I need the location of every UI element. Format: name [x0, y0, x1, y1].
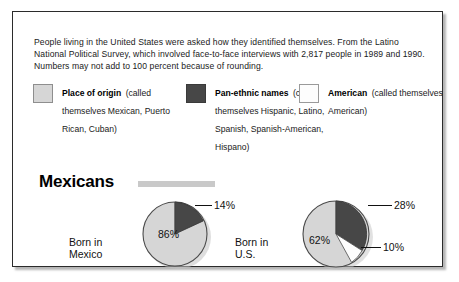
legend-text-american: American (called themselves American) [328, 82, 448, 118]
heading-rule [138, 181, 215, 187]
intro-paragraph: People living in the United States were … [34, 36, 426, 73]
legend-swatch-american-icon [299, 84, 319, 103]
pie-caption-line1: Born in [235, 236, 268, 248]
leader-line-10 [361, 247, 381, 248]
legend-text-place-of-origin: Place of origin (called themselves Mexic… [62, 82, 182, 136]
section-heading: Mexicans [39, 172, 114, 192]
value-label-28: 28% [394, 199, 415, 211]
pie-caption-born-in-us: Born in U.S. [235, 236, 268, 260]
legend: Place of origin (called themselves Mexic… [33, 82, 433, 162]
leader-line-28 [368, 205, 392, 206]
legend-title-pan-ethnic-names: Pan-ethnic names [215, 88, 289, 98]
leader-line-14 [195, 205, 212, 206]
legend-swatch-place-of-origin-icon [33, 84, 53, 103]
pie-caption-line1: Born in [69, 236, 102, 248]
figure-frame: People living in the United States were … [12, 11, 443, 267]
pie-caption-born-in-mexico: Born in Mexico [69, 236, 102, 260]
value-label-14: 14% [214, 199, 235, 211]
value-label-10: 10% [383, 241, 404, 253]
legend-title-american: American [328, 88, 367, 98]
legend-swatch-pan-ethnic-names-icon [186, 84, 206, 103]
value-label-86: 86% [158, 228, 179, 240]
legend-title-place-of-origin: Place of origin [62, 88, 121, 98]
pie-caption-line2: U.S. [235, 248, 268, 260]
value-label-62: 62% [309, 234, 330, 246]
pie-caption-line2: Mexico [69, 248, 102, 260]
